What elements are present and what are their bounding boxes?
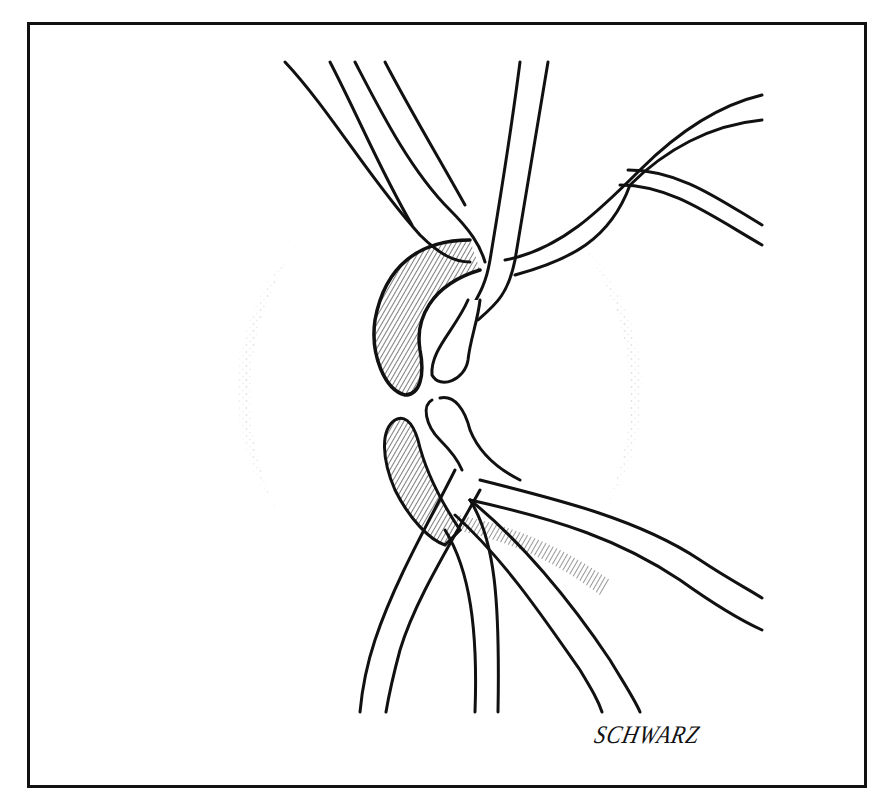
artist-signature: SCHWARZ	[592, 720, 703, 750]
optic-disc-illustration	[0, 0, 881, 805]
